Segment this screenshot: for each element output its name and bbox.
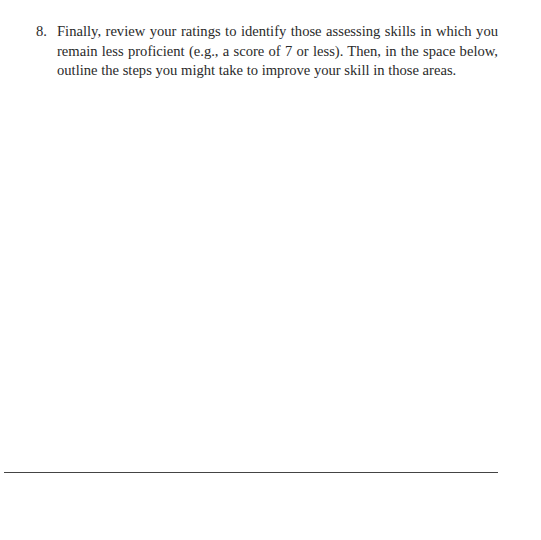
item-number: 8.	[36, 22, 57, 81]
instruction-item-8: 8. Finally, review your ratings to ident…	[36, 22, 498, 81]
item-text: Finally, review your ratings to identify…	[57, 22, 498, 81]
answer-line	[4, 472, 498, 473]
